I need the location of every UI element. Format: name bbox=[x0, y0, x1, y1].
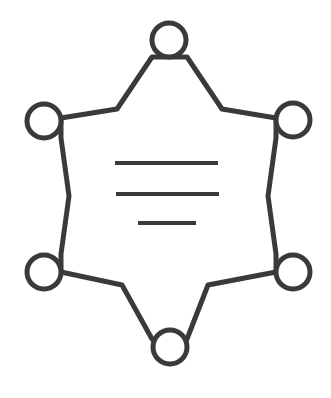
star-badge-illustration bbox=[0, 0, 331, 398]
ring-point-top bbox=[152, 23, 186, 57]
ring-point-bottom bbox=[153, 330, 187, 364]
ring-point-bottom-right bbox=[276, 255, 310, 289]
ring-point-top-right bbox=[276, 103, 310, 137]
ring-point-bottom-left bbox=[27, 255, 61, 289]
star-outline-path bbox=[61, 57, 276, 339]
icon-canvas bbox=[0, 0, 331, 398]
ring-point-top-left bbox=[27, 104, 61, 138]
